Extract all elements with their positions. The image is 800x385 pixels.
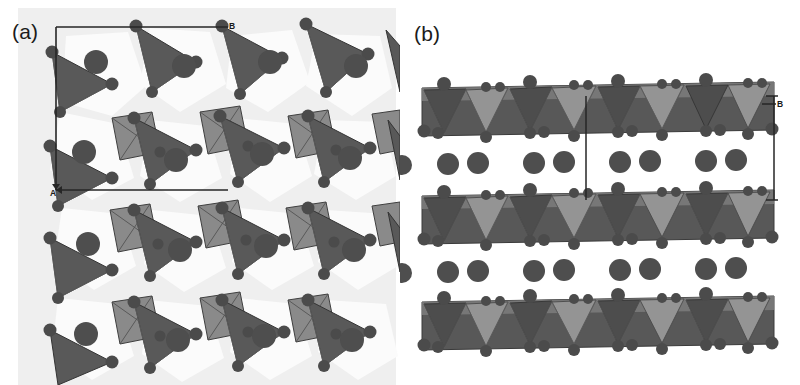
axis-label-b-panel-a: B [229,21,235,31]
panel-b-canvas [400,0,800,385]
panel-a-canvas [0,0,400,385]
panel-a: (a) [0,0,400,385]
crystal-structure-figure: (a) [0,0,800,385]
axis-label-b-panel-b: B [777,99,783,109]
panel-a-label: (a) [12,20,38,44]
panel-b: (b) [400,0,800,385]
panel-b-label: (b) [414,22,440,46]
axis-label-a-panel-a: A [50,188,56,198]
